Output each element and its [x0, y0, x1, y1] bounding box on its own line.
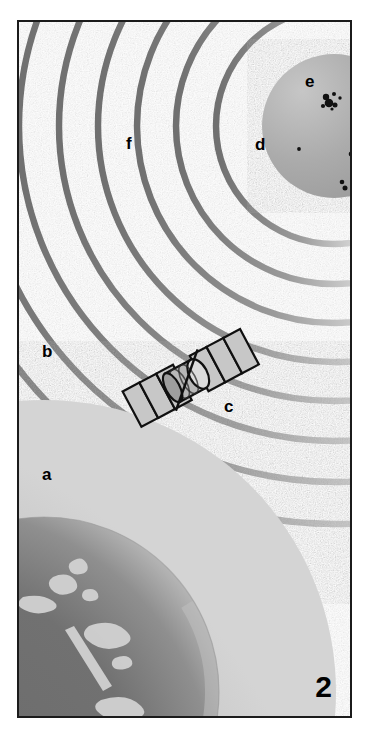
- figure-panel-2: a b c d e f 2: [0, 0, 371, 740]
- sunspot: [297, 147, 301, 151]
- astronomy-scene: [19, 22, 350, 716]
- label-d: d: [255, 136, 265, 153]
- sunspot: [338, 96, 341, 99]
- sunspot: [332, 92, 336, 96]
- sunspot: [330, 107, 333, 110]
- label-a: a: [42, 466, 51, 483]
- sunspot: [321, 104, 325, 108]
- sunspot: [333, 103, 338, 108]
- label-e: e: [305, 73, 314, 90]
- label-b: b: [42, 343, 52, 360]
- figure-frame: a b c d e f 2: [17, 20, 352, 718]
- sunspot: [343, 186, 348, 191]
- panel-number: 2: [315, 672, 332, 702]
- label-c: c: [224, 398, 233, 415]
- sunspot: [325, 99, 334, 108]
- sunspot: [340, 180, 345, 185]
- label-f: f: [126, 135, 132, 152]
